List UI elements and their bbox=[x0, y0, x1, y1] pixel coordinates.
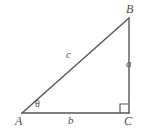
side-label-a: a bbox=[126, 58, 132, 69]
side-label-b: b bbox=[68, 115, 74, 126]
side-label-c: c bbox=[66, 49, 71, 60]
vertex-label-b: B bbox=[126, 3, 133, 15]
right-angle-marker-icon bbox=[120, 104, 129, 113]
vertex-label-c: C bbox=[124, 115, 132, 127]
right-triangle-figure: A B C a b c θ bbox=[0, 0, 146, 134]
vertex-label-a: A bbox=[15, 115, 22, 127]
angle-label-theta: θ bbox=[35, 99, 40, 109]
